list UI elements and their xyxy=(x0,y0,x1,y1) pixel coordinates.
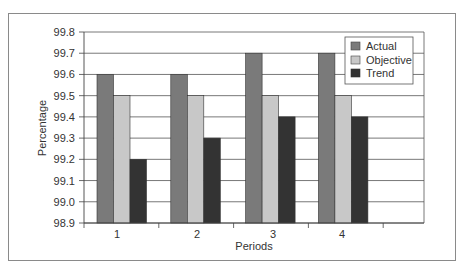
legend-swatch-actual xyxy=(351,42,360,50)
x-tick-label: 1 xyxy=(114,228,120,240)
y-axis-title: Percentage xyxy=(36,100,48,156)
bar-trend-2 xyxy=(204,138,221,223)
y-tick-label: 99.0 xyxy=(54,196,75,208)
y-tick-label: 99.6 xyxy=(54,68,75,80)
y-tick-label: 99.1 xyxy=(54,175,75,187)
x-tick-label: 3 xyxy=(270,228,276,240)
y-tick-label: 98.9 xyxy=(54,217,75,229)
y-tick-label: 99.4 xyxy=(54,111,75,123)
x-tick-label: 2 xyxy=(194,228,200,240)
y-tick-label: 99.7 xyxy=(54,47,75,59)
bar-actual-4 xyxy=(318,53,335,223)
bar-actual-1 xyxy=(97,74,114,223)
y-tick-label: 99.2 xyxy=(54,153,75,165)
y-tick-labels: 99.899.799.699.599.499.399.299.199.098.9 xyxy=(54,26,75,229)
y-tick-label: 99.5 xyxy=(54,90,75,102)
legend-label-trend: Trend xyxy=(366,67,394,79)
bar-objective-1 xyxy=(114,96,131,223)
bar-objective-4 xyxy=(335,96,352,223)
legend: Actual Objective Trend xyxy=(345,37,413,84)
bar-trend-4 xyxy=(351,117,368,223)
bar-objective-2 xyxy=(187,96,204,223)
bar-actual-2 xyxy=(171,74,188,223)
y-tick-label: 99.8 xyxy=(54,26,75,38)
legend-swatch-trend xyxy=(351,69,360,77)
y-tick-label: 99.3 xyxy=(54,132,75,144)
x-axis-title: Periods xyxy=(235,240,273,252)
bar-chart: 99.899.799.699.599.499.399.299.199.098.9… xyxy=(0,0,467,272)
legend-label-objective: Objective xyxy=(366,54,412,66)
bar-actual-3 xyxy=(246,53,263,223)
bar-trend-3 xyxy=(279,117,296,223)
x-tick-label: 4 xyxy=(339,228,345,240)
bar-trend-1 xyxy=(130,159,147,223)
bar-objective-3 xyxy=(262,96,279,223)
x-tick-labels: 1234 xyxy=(114,228,345,240)
legend-swatch-objective xyxy=(351,56,360,64)
legend-label-actual: Actual xyxy=(366,40,397,52)
